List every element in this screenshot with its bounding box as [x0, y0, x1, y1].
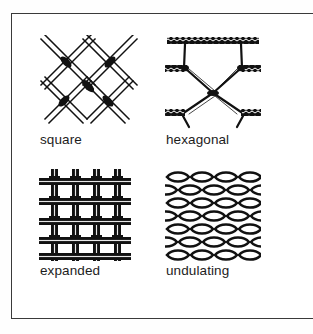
mesh-panel-hexagonal: hexagonal — [165, 35, 291, 165]
expanded-mesh-icon — [39, 169, 131, 261]
mesh-panel-label-square: square — [39, 132, 82, 147]
mesh-panel-label-expanded: expanded — [39, 263, 100, 278]
mesh-panel-label-hexagonal: hexagonal — [165, 132, 229, 147]
mesh-panel-square: square — [39, 35, 165, 165]
mesh-panel-expanded: expanded — [39, 165, 165, 295]
mesh-panel-label-undulating: undulating — [165, 263, 229, 278]
undulating-mesh-icon — [165, 169, 261, 261]
figure-root: square — [0, 0, 313, 334]
mesh-pattern-grid: square — [11, 13, 301, 319]
hexagonal-mesh-icon — [165, 35, 261, 130]
square-mesh-icon — [39, 35, 139, 130]
mesh-panel-undulating: undulating — [165, 165, 291, 295]
